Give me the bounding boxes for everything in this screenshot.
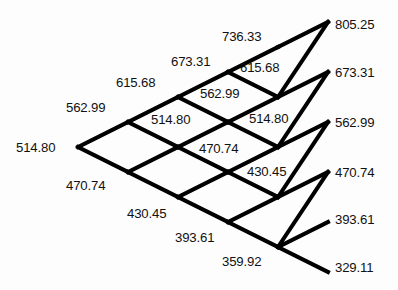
lattice-node-value: 514.80 [16,141,55,154]
lattice-node-value: 514.80 [249,112,288,125]
binomial-lattice-figure: 514.80562.99470.74615.68514.80430.45673.… [0,0,398,290]
lattice-node-value: 470.74 [335,166,374,179]
lattice-node-value: 673.31 [171,55,210,68]
lattice-node-value: 514.80 [151,113,190,126]
lattice-node-value: 615.68 [240,61,279,74]
lattice-node-value: 562.99 [200,87,239,100]
lattice-edge [278,247,328,272]
lattice-edge [178,172,228,197]
lattice-edge [228,222,278,247]
lattice-node-value: 615.68 [116,76,155,89]
lattice-node-value: 359.92 [222,255,261,268]
lattice-node-value: 470.74 [199,142,238,155]
lattice-node-value: 329.11 [335,261,373,274]
lattice-node-value: 393.61 [335,213,374,226]
lattice-node-value: 562.99 [335,116,374,129]
lattice-edge [78,122,128,147]
lattice-node-value: 430.45 [247,165,286,178]
lattice-node-value: 470.74 [66,179,105,192]
lattice-edge [228,197,278,222]
lattice-edge [178,197,228,222]
lattice-node-value: 430.45 [127,207,166,220]
lattice-node-value: 393.61 [175,231,214,244]
lattice-node-value: 805.25 [335,18,374,31]
lattice-node-value: 562.99 [66,101,105,114]
lattice-node-value: 673.31 [335,66,374,79]
lattice-edge [128,147,178,172]
lattice-edge [78,147,128,172]
lattice-node-value: 736.33 [222,30,261,43]
lattice-edge [128,172,178,197]
